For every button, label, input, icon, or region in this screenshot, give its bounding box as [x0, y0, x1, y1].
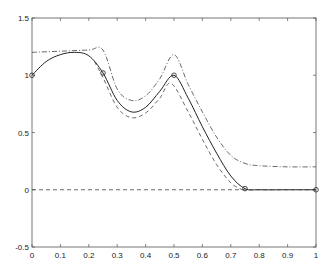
x-axis-tick-labels: 00.10.20.30.40.50.60.70.80.91	[30, 251, 319, 260]
x-tick-label: 0.6	[197, 251, 209, 260]
y-tick-label: 1	[25, 71, 30, 80]
y-tick-label: 0.5	[18, 129, 30, 138]
x-tick-label: 0.2	[83, 251, 95, 260]
x-tick-label: 0.4	[140, 251, 152, 260]
x-tick-label: 0	[30, 251, 35, 260]
line-chart: 00.10.20.30.40.50.60.70.80.91 -0.500.511…	[0, 0, 333, 270]
x-tick-label: 0.5	[168, 251, 180, 260]
x-tick-label: 0.1	[55, 251, 67, 260]
y-tick-label: 0	[25, 186, 30, 195]
x-tick-label: 0.3	[112, 251, 124, 260]
x-tick-label: 0.9	[282, 251, 294, 260]
x-tick-label: 0.7	[225, 251, 237, 260]
x-tick-label: 1	[314, 251, 319, 260]
y-tick-label: 1.5	[18, 14, 30, 23]
y-tick-label: -0.5	[15, 243, 29, 252]
x-tick-label: 0.8	[254, 251, 266, 260]
y-axis-tick-labels: -0.500.511.5	[15, 14, 29, 252]
